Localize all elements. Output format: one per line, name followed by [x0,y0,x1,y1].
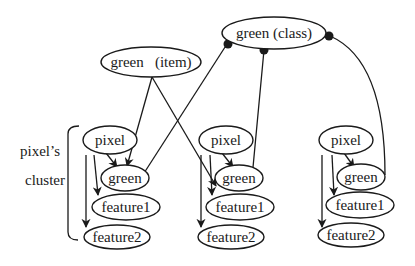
node-green: green [101,165,149,191]
svg-text:green: green [222,170,256,186]
node-label: green (class) [236,25,312,42]
svg-text:feature1: feature1 [101,199,150,215]
node-feature2: feature2 [318,223,384,247]
node-label: green (item) [110,54,191,71]
node-pixel: pixel [319,126,373,154]
node-green: green [215,165,263,191]
svg-text:pixel: pixel [211,132,241,148]
node-pixel: pixel [83,126,137,154]
cluster-1: pixel green feature1 feature2 [83,126,160,249]
svg-text:feature2: feature2 [326,227,375,243]
svg-text:feature1: feature1 [335,197,384,213]
svg-text:pixel: pixel [331,132,361,148]
node-green: green [337,164,385,190]
cluster-bracket [68,126,79,240]
bayesian-network-diagram: green (class) green (item) pixel green f… [0,0,415,266]
svg-text:green: green [344,169,378,185]
node-feature1: feature1 [326,192,394,218]
node-feature1: feature1 [92,194,160,220]
node-green-class: green (class) [222,17,326,49]
cluster-3: pixel green feature1 feature2 [318,126,394,247]
cluster-label-line1: pixel’s [20,143,60,159]
node-feature2: feature2 [198,225,264,249]
svg-text:feature2: feature2 [92,229,141,245]
edge-class-to-green2 [252,50,264,178]
node-feature1: feature1 [206,194,274,220]
node-feature2: feature2 [84,225,150,249]
cluster-label-line2: cluster [25,172,65,188]
svg-text:pixel: pixel [95,132,125,148]
svg-text:feature1: feature1 [215,199,264,215]
svg-text:feature2: feature2 [206,229,255,245]
node-green-item: green (item) [101,47,201,77]
edge-item-to-green1 [127,77,152,166]
cluster-2: pixel green feature1 feature2 [198,126,274,249]
node-pixel: pixel [199,126,253,154]
svg-text:green: green [108,170,142,186]
